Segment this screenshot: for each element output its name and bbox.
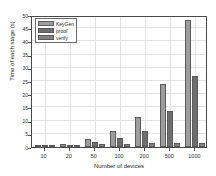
bar-group [82, 17, 107, 147]
bar-keygen [60, 144, 66, 147]
bar-keygen [160, 84, 166, 147]
y-axis-label: Time of each stage (s) [9, 3, 15, 99]
y-tick-label: 0 [14, 146, 28, 151]
bar-group [133, 17, 158, 147]
bar-verify [124, 144, 130, 147]
x-tick-mark [144, 148, 145, 151]
y-tick-label: 35 [14, 53, 28, 58]
y-tick-mark [28, 135, 31, 136]
bar-verify [149, 143, 155, 147]
bar-keygen [135, 117, 141, 147]
bar-keygen [35, 145, 41, 147]
y-tick-mark [28, 69, 31, 70]
x-tick-mark [44, 148, 45, 151]
bar-proof [142, 131, 148, 147]
x-tick-mark [69, 148, 70, 151]
bar-group [183, 17, 207, 147]
x-axis-label: Number of devices [31, 163, 207, 169]
x-tick-label: 200 [131, 153, 157, 159]
y-tick-mark [28, 82, 31, 83]
y-tick-mark [28, 16, 31, 17]
legend-swatch [38, 35, 54, 40]
legend-swatch [38, 28, 54, 33]
y-tick-mark [28, 56, 31, 57]
legend-item: verify [38, 35, 74, 41]
x-tick-label: 1000 [181, 153, 207, 159]
bar-verify [174, 143, 180, 147]
y-tick-mark [28, 29, 31, 30]
bar-proof [67, 145, 73, 147]
legend-label: proof [56, 28, 67, 34]
bar-proof [42, 145, 48, 147]
bar-group [158, 17, 183, 147]
x-tick-label: 500 [156, 153, 182, 159]
legend-swatch [38, 21, 54, 26]
y-tick-label: 40 [14, 40, 28, 45]
y-tick-label: 50 [14, 14, 28, 19]
y-tick-mark [28, 42, 31, 43]
y-tick-mark [28, 95, 31, 96]
legend-label: verify [56, 35, 68, 41]
y-tick-label: 15 [14, 106, 28, 111]
x-tick-mark [169, 148, 170, 151]
x-tick-mark [194, 148, 195, 151]
bar-verify [74, 145, 80, 147]
bar-verify [99, 144, 105, 147]
bar-proof [192, 76, 198, 147]
x-tick-label: 100 [106, 153, 132, 159]
y-tick-label: 10 [14, 119, 28, 124]
y-tick-label: 30 [14, 66, 28, 71]
bar-group [107, 17, 132, 147]
bar-proof [92, 142, 98, 147]
bar-keygen [85, 139, 91, 147]
bar-proof [167, 111, 173, 147]
legend-item: proof [38, 28, 74, 34]
y-tick-mark [28, 122, 31, 123]
bar-keygen [110, 131, 116, 147]
bar-verify [199, 143, 205, 147]
y-tick-label: 45 [14, 27, 28, 32]
x-tick-label: 50 [81, 153, 107, 159]
chart-legend: KeyGenproofverify [35, 18, 77, 43]
legend-label: KeyGen [56, 21, 74, 27]
y-tick-label: 5 [14, 132, 28, 137]
chart-figure: 05101520253035404550 1020501002005001000… [0, 0, 216, 176]
y-tick-mark [28, 148, 31, 149]
bar-keygen [185, 20, 191, 147]
x-tick-label: 10 [31, 153, 57, 159]
y-tick-mark [28, 108, 31, 109]
y-tick-label: 20 [14, 93, 28, 98]
x-tick-mark [94, 148, 95, 151]
x-tick-mark [119, 148, 120, 151]
legend-item: KeyGen [38, 21, 74, 27]
x-tick-label: 20 [56, 153, 82, 159]
bar-verify [49, 145, 55, 147]
y-tick-label: 25 [14, 80, 28, 85]
bar-proof [117, 138, 123, 147]
